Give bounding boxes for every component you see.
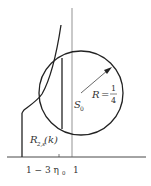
radius-label-var: R [91,89,100,100]
radius-label-num: 1 [111,84,116,93]
axis-label-left-sub: 0 [62,170,66,176]
arrow-head-icon [104,67,112,74]
region-label-arg: (k) [44,134,58,145]
diagram-canvas: R = 1 4 S 0 R 2,s (k) 1 − 3 η 0 1 [0,0,151,186]
radius-label-eq: = [101,89,109,100]
axis-label-right: 1 [73,165,79,175]
axis-label-left: 1 − 3 η [26,165,59,175]
radius-label-den: 4 [111,96,116,105]
center-label-sub: 0 [80,105,84,112]
region-boundary-curve [22,25,61,113]
